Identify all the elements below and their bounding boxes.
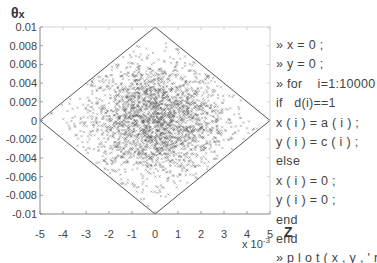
x-tick-label: -3 xyxy=(81,228,91,240)
x-tick-label: 3 xyxy=(221,228,227,240)
y-tick-label: 0.01 xyxy=(16,21,37,33)
code-line: » for i=1:10000 xyxy=(276,75,377,94)
x-tick-label: 0 xyxy=(152,228,158,240)
code-line: x ( i ) = 0 ; xyxy=(276,172,377,191)
code-line: y ( i ) = 0 ; xyxy=(276,191,377,210)
y-tick-label: -0.01 xyxy=(12,208,37,220)
x-exp-base: x 10 xyxy=(242,238,263,250)
y-tick-label: 0.002 xyxy=(9,96,37,108)
x-tick-label: 2 xyxy=(198,228,204,240)
x-exp-power: -3 xyxy=(263,236,270,245)
y-tick-label: -0.006 xyxy=(6,171,37,183)
code-line: » x = 0 ; xyxy=(276,36,377,55)
y-tick-label: -0.008 xyxy=(6,189,37,201)
data-points xyxy=(50,42,258,207)
x-tick-label: -4 xyxy=(58,228,68,240)
x-axis-title: Z xyxy=(284,224,293,240)
y-tick-label: 0.008 xyxy=(9,40,37,52)
code-line: » y = 0 ; xyxy=(276,55,377,74)
y-title-sub: x xyxy=(19,8,25,20)
code-line: y ( i ) = c ( i ) ; xyxy=(276,133,377,152)
code-line: else xyxy=(276,152,377,171)
y-tick-label: 0.004 xyxy=(9,77,37,89)
y-tick-label: 0.006 xyxy=(9,58,37,70)
x-tick-label: 1 xyxy=(175,228,181,240)
y-tick-label: -0.002 xyxy=(6,133,37,145)
x-axis-exponent: x 10-3 xyxy=(242,236,270,250)
y-axis-title: θx xyxy=(11,5,25,21)
code-line: » p l o t ( x , y , ' r x ' ) xyxy=(276,249,377,263)
code-line: if d(i)==1 xyxy=(276,94,377,113)
y-title-theta: θ xyxy=(11,5,19,21)
x-tick-label: -1 xyxy=(127,228,137,240)
x-tick-label: -2 xyxy=(104,228,114,240)
y-tick-label: 0 xyxy=(31,115,37,127)
x-tick-label: -5 xyxy=(35,228,45,240)
y-tick-label: -0.004 xyxy=(6,152,37,164)
code-line: x ( i ) = a ( i ) ; xyxy=(276,114,377,133)
